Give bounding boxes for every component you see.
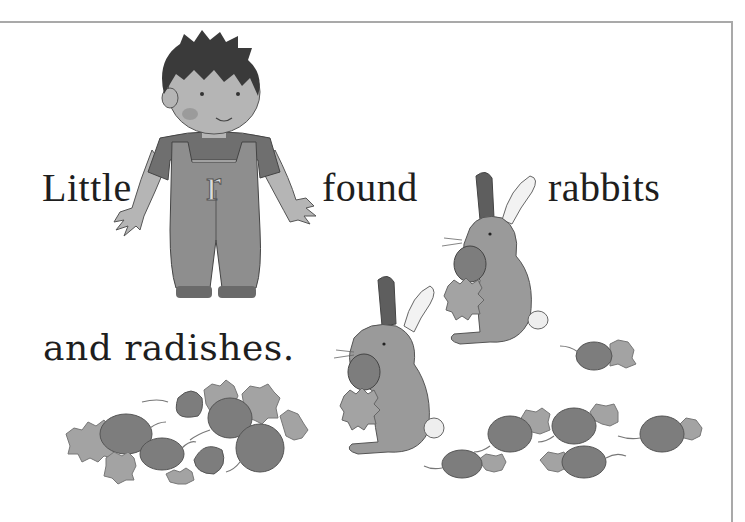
rabbit-illustration-upper bbox=[440, 168, 555, 353]
boy-illustration: r bbox=[110, 30, 325, 305]
storybook-page: Little found rabbits and radishes. r bbox=[0, 0, 745, 522]
frame-border-top bbox=[0, 21, 733, 23]
line-and-radishes: and radishes. bbox=[43, 330, 295, 366]
frame-border-right bbox=[731, 21, 733, 522]
word-found: found bbox=[322, 168, 418, 208]
radish-pile-right bbox=[418, 330, 708, 480]
word-rabbits: rabbits bbox=[548, 168, 660, 208]
radish-pile-left bbox=[62, 378, 327, 486]
shirt-letter: r bbox=[206, 159, 221, 210]
